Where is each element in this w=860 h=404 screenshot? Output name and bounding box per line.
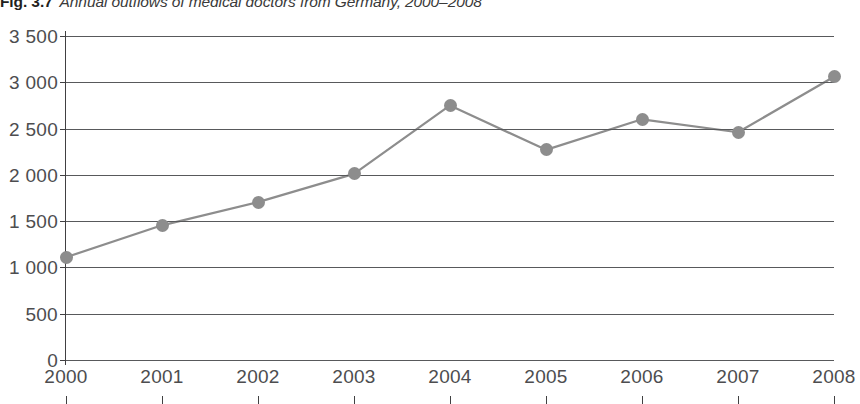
x-axis-tick [450,396,451,404]
gridline [66,314,834,315]
y-axis-tick [60,82,66,83]
gridline [66,267,834,268]
data-point-marker [828,70,841,83]
y-axis-tick-label: 3 000 [0,73,58,92]
y-axis-tick [60,36,66,37]
y-axis-tick [60,221,66,222]
y-axis-tick-label: 3 500 [0,27,58,46]
data-point-marker [252,196,265,209]
figure-number: Fig. 3.7 [0,0,53,10]
data-point-marker [60,251,73,264]
y-axis-tick-label: 1 500 [0,212,58,231]
x-axis-tick-label: 2004 [395,366,505,387]
data-point-marker [444,99,457,112]
data-point-marker [348,167,361,180]
y-axis-tick [60,267,66,268]
bottom-edge-clip [0,389,852,396]
gridline [66,82,834,83]
gridline [66,360,834,361]
x-axis-tick [66,396,67,404]
series-line [66,36,834,360]
y-axis-tick [60,175,66,176]
y-axis-tick-label: 500 [0,305,58,324]
y-axis-tick-label: 2 500 [0,120,58,139]
data-point-marker [636,113,649,126]
y-axis-tick-label: 2 000 [0,166,58,185]
data-point-marker [156,219,169,232]
x-axis-tick [354,396,355,404]
x-axis-tick-label: 2001 [107,366,217,387]
x-axis-tick-label: 2006 [587,366,697,387]
x-axis-tick [642,396,643,404]
x-axis-tick-label: 2008 [779,366,860,387]
data-point-marker [732,126,745,139]
data-point-marker [540,143,553,156]
y-axis-tick [60,314,66,315]
y-axis-tick-label: 1 000 [0,258,58,277]
x-axis-tick-label: 2007 [683,366,793,387]
x-axis-tick-label: 2002 [203,366,313,387]
x-axis-tick [258,396,259,404]
x-axis-tick [738,396,739,404]
x-axis-tick-label: 2000 [11,366,121,387]
x-axis-tick [834,396,835,404]
plot-area [66,36,834,360]
x-axis-tick [162,396,163,404]
gridline [66,36,834,37]
y-axis-tick [60,129,66,130]
x-axis-tick-label: 2005 [491,366,601,387]
x-axis-tick-label: 2003 [299,366,409,387]
y-axis-tick [60,360,66,361]
gridline [66,175,834,176]
gridline [66,129,834,130]
figure-title-text: Annual outflows of medical doctors from … [60,0,482,10]
gridline [66,221,834,222]
figure-caption: Fig. 3.7Annual outflows of medical docto… [0,0,852,13]
x-axis-tick [546,396,547,404]
